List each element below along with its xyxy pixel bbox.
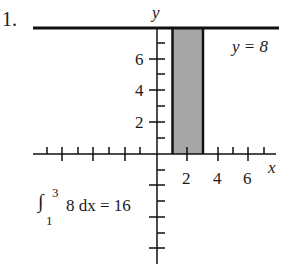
integral-lower-limit: 1: [46, 213, 53, 228]
integral-sign: ∫: [36, 190, 45, 214]
y-tick-label-2: 2: [135, 113, 144, 132]
graph-canvas: 1. 6: [0, 0, 284, 264]
integral-expression: 8 dx = 16: [66, 196, 131, 215]
y-axis-label: y: [150, 3, 160, 22]
problem-number: 1.: [2, 8, 17, 30]
line-label: y = 8: [230, 37, 269, 56]
integral-upper-limit: 3: [52, 185, 59, 200]
x-tick-label-2: 2: [182, 169, 191, 188]
x-tick-label-6: 6: [243, 169, 252, 188]
y-tick-label-6: 6: [135, 50, 144, 69]
shaded-region: [172, 28, 203, 154]
y-tick-label-4: 4: [135, 81, 144, 100]
x-tick-label-4: 4: [213, 169, 222, 188]
x-axis-label: x: [267, 158, 276, 177]
